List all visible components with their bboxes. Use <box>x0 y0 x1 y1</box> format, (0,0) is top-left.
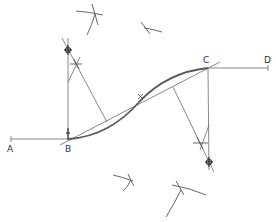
arc-swing-bottom-left <box>113 174 134 191</box>
x-marker <box>138 94 143 99</box>
arc-swing-top-middle <box>141 22 162 34</box>
lower-arc-cross <box>193 137 208 149</box>
arc-swing-top-left <box>76 4 103 35</box>
upper-center-mark <box>64 45 72 55</box>
arc-swing-bottom-right <box>166 181 206 217</box>
perpendicular-c <box>208 68 209 170</box>
label-b: B <box>65 144 71 154</box>
lower-center-mark <box>205 157 213 167</box>
label-a: A <box>7 144 14 154</box>
chord-bc <box>60 62 220 145</box>
label-d: D <box>264 55 271 65</box>
ogee-curve-diagram: A B C D <box>0 0 276 222</box>
upper-arc-cross <box>70 59 82 69</box>
label-c: C <box>203 55 209 65</box>
line-cd <box>208 65 268 71</box>
line-ab <box>11 136 69 142</box>
